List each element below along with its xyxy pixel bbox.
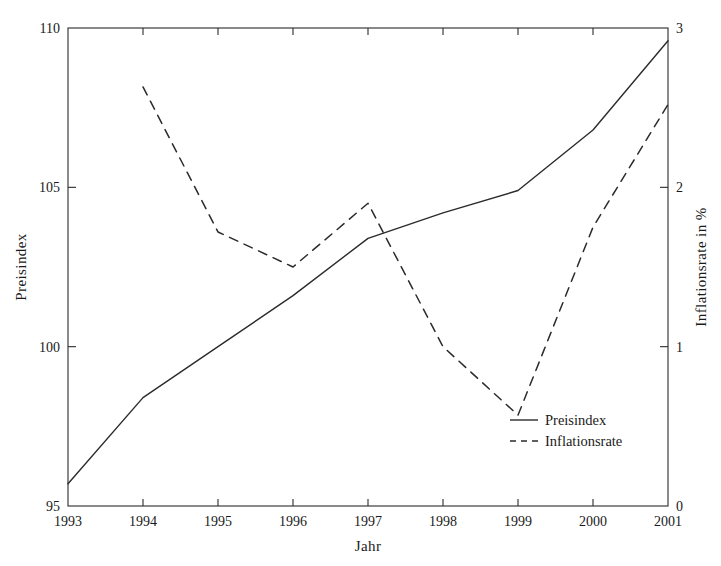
legend-label-preisindex: Preisindex — [545, 412, 607, 428]
chart-container: 199319941995199619971998199920002001 951… — [0, 0, 721, 566]
legend-label-inflationsrate: Inflationsrate — [545, 433, 622, 449]
x-tick-label: 1995 — [204, 514, 232, 529]
x-axis-title: Jahr — [355, 538, 382, 554]
x-tick-label: 2001 — [654, 514, 682, 529]
x-tick-label: 2000 — [579, 514, 607, 529]
y2-tick-label: 2 — [676, 180, 683, 195]
y-tick-label: 105 — [39, 180, 60, 195]
y-tick-label: 95 — [46, 499, 60, 514]
y-tick-label: 100 — [39, 340, 60, 355]
x-tick-label: 1994 — [129, 514, 157, 529]
x-tick-label: 1998 — [429, 514, 457, 529]
x-tick-label: 1999 — [504, 514, 532, 529]
y2-tick-label: 3 — [676, 21, 683, 36]
y2-tick-label: 0 — [676, 499, 683, 514]
y-tick-label: 110 — [40, 21, 60, 36]
x-axis-tick-labels: 199319941995199619971998199920002001 — [54, 514, 682, 529]
y-axis-left-title: Preisindex — [13, 233, 29, 300]
x-tick-label: 1993 — [54, 514, 82, 529]
y2-tick-label: 1 — [676, 340, 683, 355]
chart-background — [0, 0, 721, 566]
x-tick-label: 1997 — [354, 514, 382, 529]
line-chart: 199319941995199619971998199920002001 951… — [0, 0, 721, 566]
x-tick-label: 1996 — [279, 514, 307, 529]
y-axis-right-title: Inflationsrate in % — [693, 207, 709, 326]
